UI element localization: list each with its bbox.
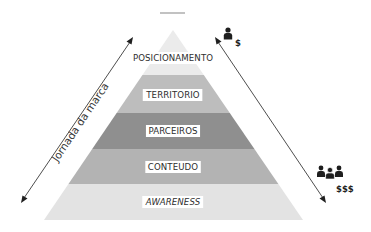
layer-label-parceiros: PARCEIROS — [146, 125, 200, 137]
arrow-head-down-icon — [21, 196, 28, 204]
low-cost-label: $ — [235, 38, 241, 48]
layer-label-posicionamento: POSICIONAMENTO — [130, 52, 215, 64]
high-cost-label: $$$ — [336, 184, 354, 194]
single-person-icon — [224, 27, 232, 39]
layer-label-text: AWARENESS — [145, 197, 201, 207]
layer-label-conteudo: CONTEUDO — [145, 161, 200, 173]
arrow-head-down-icon — [320, 196, 327, 204]
arrow-head-up-icon — [127, 37, 134, 45]
layer-label-text: POSICIONAMENTO — [133, 53, 213, 63]
layer-label-text: PARCEIROS — [148, 126, 197, 136]
layer-label-awareness: AWARENESS — [142, 196, 203, 208]
group-people-icon — [317, 166, 343, 179]
layer-label-territorio: TERRITORIO — [143, 89, 203, 101]
layer-label-text: CONTEUDO — [148, 162, 198, 172]
arrow-head-up-icon — [215, 37, 222, 45]
brand-journey-pyramid-diagram: POSICIONAMENTOTERRITORIOPARCEIROSCONTEUD… — [0, 0, 371, 232]
layer-label-text: TERRITORIO — [145, 90, 200, 100]
